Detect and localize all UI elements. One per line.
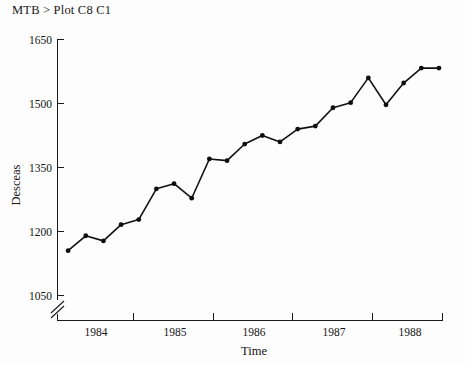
data-point (437, 66, 442, 71)
series-line-c1 (68, 68, 439, 251)
x-tick-label-1988: 1988 (399, 326, 422, 338)
data-point (101, 238, 106, 243)
data-point (66, 248, 71, 253)
data-point (172, 181, 177, 186)
data-point (225, 158, 230, 163)
y-tick-label-1200: 1200 (29, 226, 52, 238)
data-point (348, 100, 353, 105)
x-axis-ticks (134, 313, 443, 320)
data-point (366, 76, 371, 81)
series-markers (66, 66, 442, 253)
x-tick-label-1984: 1984 (85, 326, 108, 338)
data-point (295, 127, 300, 132)
time-series-chart: 1650 1500 1350 1200 1050 Desceas 1984 19… (0, 0, 465, 365)
data-point (384, 102, 389, 107)
data-point (189, 196, 194, 201)
data-point (83, 233, 88, 238)
data-point (331, 105, 336, 110)
x-tick-label-1986: 1986 (243, 326, 266, 338)
data-point (401, 81, 406, 86)
x-tick-label-1987: 1987 (323, 326, 346, 338)
data-point (207, 157, 212, 162)
data-point (136, 217, 141, 222)
data-point (154, 186, 159, 191)
data-point (242, 142, 247, 147)
data-point (419, 66, 424, 71)
data-point (313, 124, 318, 129)
data-point (119, 222, 124, 227)
x-tick-label-1985: 1985 (164, 326, 187, 338)
y-tick-label-1050: 1050 (29, 290, 52, 302)
data-point (278, 140, 283, 145)
data-point (260, 133, 265, 138)
y-axis-title: Desceas (9, 164, 23, 205)
y-tick-label-1350: 1350 (29, 162, 52, 174)
y-tick-label-1650: 1650 (29, 34, 52, 46)
y-tick-label-1500: 1500 (29, 98, 52, 110)
minitab-plot-window: MTB > Plot C8 C1 1650 1500 1350 1200 105… (0, 0, 465, 365)
x-axis-title: Time (241, 344, 267, 358)
